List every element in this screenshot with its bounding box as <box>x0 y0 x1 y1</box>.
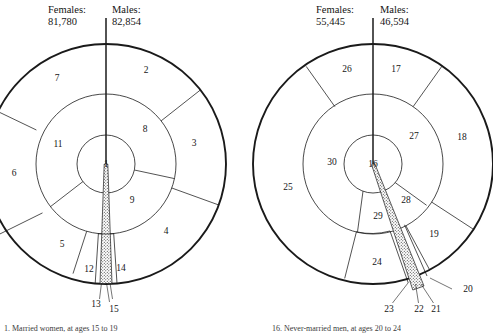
right-segment-25: 25 <box>283 182 293 192</box>
left-divider-3-4 <box>172 188 219 205</box>
right-segment-16: 16 <box>368 159 378 169</box>
left-segment-9: 9 <box>130 195 135 205</box>
left-diagram-group: 1 2 3 4 5 6 7 8 9 11 12 14 13 15 <box>0 18 226 314</box>
right-label-23: 23 <box>384 304 394 314</box>
right-diagram-group: 16 17 18 19 20 24 25 26 27 28 29 30 23 2… <box>253 18 493 314</box>
left-label-13: 13 <box>91 299 101 309</box>
left-segment-5: 5 <box>60 239 65 249</box>
right-label-21: 21 <box>431 304 441 314</box>
left-segment-2: 2 <box>144 65 149 75</box>
left-segment-12: 12 <box>84 264 94 274</box>
left-footnote: 1. Married women, at ages 15 to 19 <box>4 324 118 333</box>
left-segment-7: 7 <box>55 73 60 83</box>
right-segment-24: 24 <box>372 257 382 267</box>
right-divider-18-19 <box>432 202 474 229</box>
right-segment-17: 17 <box>391 64 401 74</box>
right-segment-18: 18 <box>457 132 467 142</box>
right-leader-21 <box>421 284 434 303</box>
right-segment-30: 30 <box>327 157 337 167</box>
left-leader-13 <box>100 283 102 299</box>
right-divider-29-30 <box>358 191 364 232</box>
left-segment-4: 4 <box>164 226 169 236</box>
left-outer-circle <box>0 44 226 284</box>
left-label-15: 15 <box>109 304 119 314</box>
right-label-22: 22 <box>414 304 424 314</box>
right-leader-20 <box>430 278 452 289</box>
left-divider-9-11 <box>50 182 83 207</box>
left-segment-3: 3 <box>192 138 197 148</box>
left-hatched-wedge <box>100 164 112 284</box>
right-divider-24-25 <box>345 232 357 279</box>
left-divider-6-7 <box>0 107 36 130</box>
left-leader-15 <box>107 283 110 302</box>
left-divider-8-9 <box>134 170 174 179</box>
right-segment-27: 27 <box>409 131 419 141</box>
right-segment-26: 26 <box>342 64 352 74</box>
left-segment-8: 8 <box>143 124 148 134</box>
left-segment-14: 14 <box>116 263 126 273</box>
left-segment-6: 6 <box>12 168 17 178</box>
right-segment-29: 29 <box>373 211 383 221</box>
left-wedge-14-edge <box>114 234 117 284</box>
right-hatched-wedge <box>372 163 424 290</box>
right-footnote: 16. Never-married men, at ages 20 to 24 <box>272 324 401 333</box>
left-wedge-12-edge <box>95 234 98 284</box>
right-divider-26-25 <box>306 66 335 106</box>
right-divider-17-18 <box>413 66 442 106</box>
right-segment-19: 19 <box>429 229 439 239</box>
right-segment-20: 20 <box>463 284 473 294</box>
right-leader-23 <box>393 283 409 303</box>
left-segment-11: 11 <box>53 139 62 149</box>
left-leader-15b <box>110 283 113 299</box>
left-divider-2-3 <box>161 90 200 121</box>
right-segment-28: 28 <box>401 195 411 205</box>
right-divider-27-28 <box>395 183 426 206</box>
left-segment-1: 1 <box>104 159 109 169</box>
